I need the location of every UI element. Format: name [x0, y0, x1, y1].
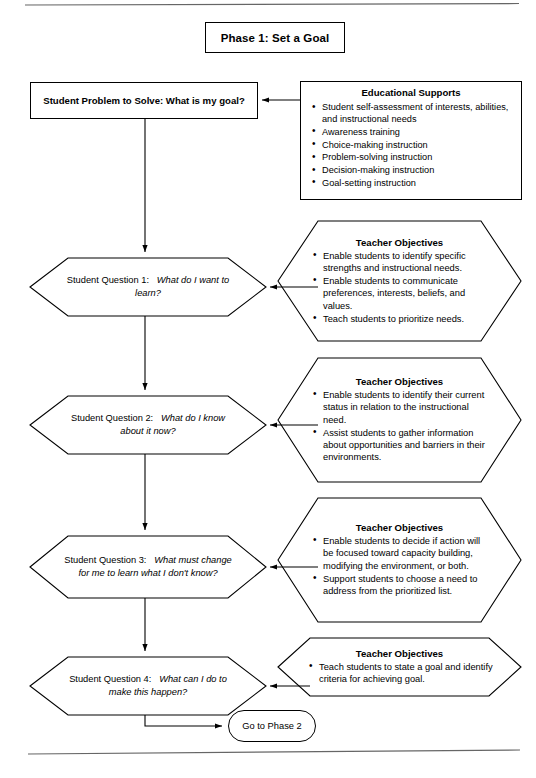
teacher-objectives-title: Teacher Objectives: [308, 237, 491, 248]
question-label: Student Question 4:: [69, 674, 151, 684]
list-item: Enable students to identify specific str…: [323, 250, 491, 275]
list-item: Student self-assessment of interests, ab…: [322, 101, 515, 125]
teacher-objectives-title: Teacher Objectives: [308, 376, 491, 387]
teacher-objectives-1-hexagon: Teacher Objectives Enable students to id…: [278, 221, 521, 341]
educational-supports-box: Educational Supports Student self-assess…: [300, 81, 522, 200]
list-item: Support students to choose a need to add…: [323, 573, 491, 598]
list-item: Assist students to gather information ab…: [323, 427, 491, 464]
teacher-objectives-2-hexagon: Teacher Objectives Enable students to id…: [278, 358, 521, 482]
list-item: Problem-solving instruction: [322, 151, 515, 163]
go-to-phase-2-label: Go to Phase 2: [242, 721, 301, 731]
student-question-2-hexagon: Student Question 2: What do I know about…: [30, 396, 266, 454]
student-question-4-hexagon: Student Question 4: What can I do to mak…: [30, 657, 266, 715]
teacher-objectives-list: Teach students to state a goal and ident…: [304, 661, 495, 686]
teacher-objectives-list: Enable students to identify their curren…: [308, 389, 491, 464]
question-text: What do I want to learn?: [135, 275, 229, 298]
bottom-rule: [28, 750, 520, 754]
question-label: Student Question 2:: [71, 413, 153, 423]
teacher-objectives-3-hexagon: Teacher Objectives Enable students to de…: [278, 498, 521, 622]
teacher-objectives-title: Teacher Objectives: [304, 648, 495, 659]
educational-supports-title: Educational Supports: [307, 87, 515, 98]
student-problem-box: Student Problem to Solve: What is my goa…: [30, 82, 258, 119]
list-item: Enable students to communicate preferenc…: [323, 275, 491, 312]
phase-title-label: Phase 1: Set a Goal: [221, 32, 330, 44]
list-item: Teach students to state a goal and ident…: [319, 661, 495, 686]
top-rule: [25, 4, 519, 6]
teacher-objectives-list: Enable students to identify specific str…: [308, 250, 491, 325]
list-item: Enable students to identify their curren…: [323, 389, 491, 426]
flowchart-page: Phase 1: Set a Goal Student Problem to S…: [0, 0, 536, 778]
list-item: Decision-making instruction: [322, 164, 515, 176]
student-question-3-hexagon: Student Question 3: What must change for…: [30, 536, 266, 598]
student-problem-label: Student Problem to Solve: What is my goa…: [43, 95, 245, 106]
teacher-objectives-4-hexagon: Teacher Objectives Teach students to sta…: [278, 638, 521, 696]
student-question-1-hexagon: Student Question 1: What do I want to le…: [30, 258, 266, 316]
list-item: Enable students to decide if action will…: [323, 535, 491, 572]
teacher-objectives-title: Teacher Objectives: [308, 522, 491, 533]
list-item: Goal-setting instruction: [322, 177, 515, 189]
list-item: Awareness training: [322, 126, 515, 138]
question-label: Student Question 3:: [64, 555, 146, 565]
teacher-objectives-list: Enable students to decide if action will…: [308, 535, 491, 598]
list-item: Teach students to prioritize needs.: [323, 313, 491, 325]
question-label: Student Question 1:: [67, 275, 149, 285]
list-item: Choice-making instruction: [322, 139, 515, 151]
go-to-phase-2-terminator: Go to Phase 2: [228, 710, 316, 742]
educational-supports-list: Student self-assessment of interests, ab…: [307, 101, 515, 189]
connector-q4-to-phase2: [145, 715, 222, 726]
phase-title-box: Phase 1: Set a Goal: [205, 22, 345, 53]
